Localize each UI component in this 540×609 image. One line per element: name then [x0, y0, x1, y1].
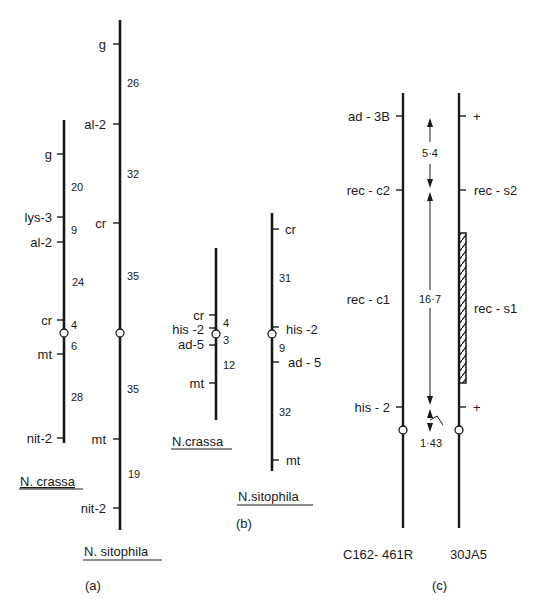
distance-label: 16·7	[419, 293, 441, 305]
centromere-icon	[60, 329, 68, 337]
locus-label: al-2	[30, 235, 52, 250]
locus-label: ad - 5	[288, 355, 321, 370]
panel-caption: (a)	[85, 578, 101, 593]
locus-label: cr	[193, 308, 205, 323]
panel-c: ad - 3B rec - c2 rec - c1 his - 2 C162- …	[343, 93, 517, 593]
species-label: N. sitophila	[84, 544, 149, 559]
locus-label: lys-3	[25, 210, 52, 225]
locus-label: mt	[286, 453, 301, 468]
locus-label: g	[99, 37, 106, 52]
panel-caption: (b)	[236, 516, 252, 531]
locus-label: cr	[95, 216, 107, 231]
distance-label: 5·4	[422, 147, 438, 159]
locus-label: cr	[41, 313, 53, 328]
distance-arrows	[427, 118, 443, 432]
distance-label: 3	[223, 334, 229, 346]
chromosome-a-sitophila: g al-2 cr mt nit-2 26 32 35 35 19 N. sit…	[81, 20, 162, 560]
locus-label: mt	[190, 376, 205, 391]
locus-label: g	[45, 147, 52, 162]
locus-label: ad-5	[178, 337, 204, 352]
locus-label: ad - 3B	[348, 109, 390, 124]
chromosome-b-crassa: cr his -2 ad-5 mt 4 3 12 N.crassa	[171, 248, 235, 449]
panel-b: cr his -2 ad-5 mt 4 3 12 N.crassa cr his…	[171, 213, 321, 531]
centromere-icon	[268, 330, 276, 338]
chromosome-a-crassa: g lys-3 al-2 cr mt nit-2 20 9 24 4 6 28 …	[19, 120, 84, 489]
locus-label: rec - s1	[474, 301, 517, 316]
distance-label: 4	[223, 317, 229, 329]
locus-label: nit-2	[27, 431, 52, 446]
chromosome-b-sitophila: cr his -2 ad - 5 mt 31 9 32 N.sitophila	[237, 213, 321, 505]
panel-caption: (c)	[432, 578, 447, 593]
distance-label: 9	[71, 224, 77, 236]
centromere-icon	[212, 330, 220, 338]
chromosome-c-left: ad - 3B rec - c2 rec - c1 his - 2 C162- …	[343, 93, 413, 562]
locus-label: rec - c1	[347, 292, 390, 307]
strain-label: 30JA5	[450, 547, 487, 562]
chromosome-c-right: + rec - s2 rec - s1 + 30JA5	[450, 93, 517, 562]
distance-label: 26	[127, 77, 139, 89]
distance-label: 28	[71, 391, 83, 403]
distance-label: 24	[72, 276, 84, 288]
locus-label: nit-2	[81, 501, 106, 516]
distance-label: 35	[127, 383, 139, 395]
distance-label: 32	[279, 406, 291, 418]
locus-label: cr	[285, 222, 297, 237]
locus-label: his -2	[172, 322, 204, 337]
hatched-region	[459, 233, 466, 383]
panel-a: g lys-3 al-2 cr mt nit-2 20 9 24 4 6 28 …	[19, 20, 162, 593]
distance-label: 1·43	[420, 437, 442, 449]
locus-label: his -2	[286, 322, 318, 337]
centromere-icon	[116, 329, 124, 337]
distance-label: 31	[279, 272, 291, 284]
centromere-icon	[399, 426, 407, 434]
strain-label: C162- 461R	[343, 547, 413, 562]
locus-label: rec - s2	[474, 183, 517, 198]
species-label: N.crassa	[172, 434, 224, 449]
distance-label: 4	[71, 319, 77, 331]
distance-label: 19	[128, 468, 140, 480]
locus-label: +	[473, 109, 481, 124]
locus-label: his - 2	[355, 400, 390, 415]
genetic-map-figure: g lys-3 al-2 cr mt nit-2 20 9 24 4 6 28 …	[0, 0, 540, 609]
locus-label: al-2	[84, 117, 106, 132]
distance-label: 20	[71, 181, 83, 193]
locus-label: +	[473, 400, 481, 415]
distance-label: 32	[127, 168, 139, 180]
species-label: N.sitophila	[238, 489, 299, 504]
centromere-icon	[455, 426, 463, 434]
distance-label: 9	[279, 342, 285, 354]
locus-label: mt	[92, 432, 107, 447]
distance-label: 6	[71, 340, 77, 352]
distance-label: 35	[127, 270, 139, 282]
species-label: N. crassa	[20, 474, 76, 489]
distance-label: 12	[223, 359, 235, 371]
locus-label: mt	[38, 347, 53, 362]
locus-label: rec - c2	[347, 183, 390, 198]
